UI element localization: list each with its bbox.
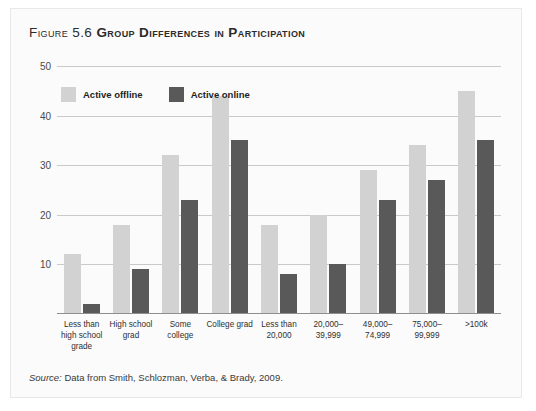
bar-offline	[360, 170, 377, 314]
x-axis-category-label: High school grad	[106, 319, 155, 352]
bar-group	[304, 66, 353, 314]
bar-offline	[212, 96, 229, 314]
source-label: Source:	[29, 372, 62, 383]
x-axis-category-label: Some college	[156, 319, 205, 352]
legend-item: Active online	[169, 87, 250, 102]
legend-swatch	[61, 87, 76, 102]
bar-offline	[64, 254, 81, 314]
bar-online	[428, 180, 445, 314]
y-axis-tick-label: 30	[40, 160, 51, 171]
bar-offline	[458, 91, 475, 314]
bar-online	[280, 274, 297, 314]
x-axis-category-label: Less than high school grade	[57, 319, 106, 352]
x-axis-category-label: 20,000–39,999	[304, 319, 353, 352]
bar-offline	[409, 145, 426, 314]
legend-item: Active offline	[61, 87, 143, 102]
bar-offline	[310, 215, 327, 314]
bar-offline	[261, 225, 278, 314]
bar-group	[452, 66, 501, 314]
bar-group	[353, 66, 402, 314]
bar-online	[329, 264, 346, 314]
bar-offline	[162, 155, 179, 314]
chart-plot-area: 1020304050	[57, 66, 501, 314]
bar-online	[132, 269, 149, 314]
bar-group	[106, 66, 155, 314]
legend-swatch	[169, 87, 184, 102]
figure-title: Figure 5.6 Group Differences in Particip…	[29, 25, 305, 40]
x-axis-category-label: 49,000–74,999	[353, 319, 402, 352]
bar-online	[231, 140, 248, 314]
chart-legend: Active offlineActive online	[61, 87, 250, 102]
figure-number: Figure 5.6	[29, 25, 92, 40]
figure-panel: Figure 5.6 Group Differences in Particip…	[10, 8, 522, 398]
legend-label: Active offline	[83, 89, 143, 100]
bar-group	[57, 66, 106, 314]
x-axis-baseline	[57, 313, 501, 314]
source-note: Source: Data from Smith, Schlozman, Verb…	[29, 372, 283, 383]
y-axis-tick-label: 50	[40, 61, 51, 72]
bar-online	[181, 200, 198, 314]
x-axis-category-label: Less than 20,000	[254, 319, 303, 352]
bar-group	[205, 66, 254, 314]
figure-title-text: Group Differences in Participation	[96, 25, 305, 40]
x-axis-category-label: >100k	[452, 319, 501, 352]
x-axis-category-label: College grad	[205, 319, 254, 352]
bar-group	[156, 66, 205, 314]
y-axis-tick-label: 20	[40, 209, 51, 220]
y-axis-tick-label: 40	[40, 110, 51, 121]
bar-group	[254, 66, 303, 314]
bar-offline	[113, 225, 130, 314]
bar-online	[379, 200, 396, 314]
bars-layer	[57, 66, 501, 314]
y-axis-tick-label: 10	[40, 259, 51, 270]
x-axis-category-label: 75,000–99,999	[402, 319, 451, 352]
source-text: Data from Smith, Schlozman, Verba, & Bra…	[62, 372, 283, 383]
bar-group	[402, 66, 451, 314]
x-axis-category-labels: Less than high school gradeHigh school g…	[57, 319, 501, 352]
bar-online	[477, 140, 494, 314]
legend-label: Active online	[191, 89, 250, 100]
